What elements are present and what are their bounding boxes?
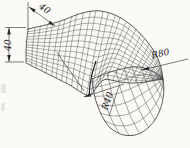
drawing-canvas: 40 40 R80 R40 [0,0,190,148]
swept-surface-mesh [26,11,163,96]
inner-radius-label: R40 [99,90,115,112]
side-height-label: 40 [3,39,13,52]
scan-artifact [1,103,5,111]
dimension-side-height: 40 [3,28,26,63]
arrowhead-icon [7,28,11,35]
technical-drawing: 40 40 R80 R40 [0,0,190,148]
dimension-outer-radius: R80 [142,47,188,70]
arrowhead-icon [7,55,11,62]
arrowhead-icon [84,93,91,97]
top-width-label: 40 [36,1,52,16]
scan-artifact [1,84,6,93]
